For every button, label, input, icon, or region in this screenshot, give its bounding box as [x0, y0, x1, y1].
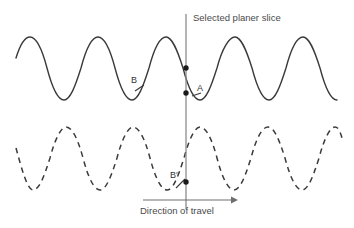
diagram-canvas — [0, 0, 354, 228]
marker-dot-upper[interactable] — [183, 65, 188, 70]
wave-diagram-figure: Selected planer slice Direction of trave… — [0, 0, 354, 228]
point-label-b: B — [131, 76, 137, 85]
direction-arrow-head — [231, 197, 238, 204]
direction-of-travel-label: Direction of travel — [140, 206, 214, 216]
tick-mark-b-prime — [176, 179, 185, 188]
marker-dot-b-prime[interactable] — [183, 179, 188, 184]
point-label-a: A — [197, 84, 203, 93]
upper-wave-solid-path — [16, 37, 337, 100]
selected-planer-slice-label: Selected planer slice — [193, 13, 281, 23]
point-label-b-prime: B′ — [170, 171, 178, 180]
marker-dot-a[interactable] — [183, 90, 188, 95]
lower-wave-dashed-path — [16, 127, 342, 190]
